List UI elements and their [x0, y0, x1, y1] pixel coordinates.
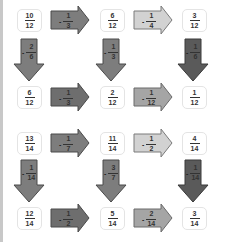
fraction-box: 514: [100, 207, 125, 230]
subtract-arrow-right: -12: [133, 128, 173, 158]
fraction-box: 1012: [17, 9, 42, 32]
subtract-arrow-right: -112: [133, 82, 173, 112]
subtract-arrow-right: -12: [50, 203, 90, 233]
fraction-box: 612: [100, 9, 125, 32]
subtract-arrow-down: -13: [95, 38, 127, 82]
fraction-box: 1314: [17, 132, 42, 155]
fraction-box: 112: [182, 86, 207, 109]
fraction-box: 314: [182, 207, 207, 230]
subtract-arrow-right: -17: [50, 128, 90, 158]
denominator: 12: [26, 22, 34, 30]
subtract-arrow-down: -114: [177, 159, 209, 203]
subtract-arrow-down: -26: [13, 38, 45, 82]
fraction-box: 612: [17, 86, 42, 109]
fraction-box: 414: [182, 132, 207, 155]
fraction-box: 1214: [17, 207, 42, 230]
subtract-arrow-right: -214: [133, 203, 173, 233]
fraction-box: 312: [182, 9, 207, 32]
page-edge-divider: [0, 0, 3, 242]
subtract-arrow-right: -13: [50, 5, 90, 35]
subtract-arrow-down: -16: [177, 38, 209, 82]
subtract-arrow-down: -114: [13, 159, 45, 203]
numerator: 10: [26, 12, 34, 20]
subtract-arrow-right: -13: [50, 82, 90, 112]
fraction-box: 212: [100, 86, 125, 109]
subtract-arrow-down: -37: [95, 159, 127, 203]
subtract-arrow-right: -14: [133, 5, 173, 35]
fraction-box: 1114: [100, 132, 125, 155]
